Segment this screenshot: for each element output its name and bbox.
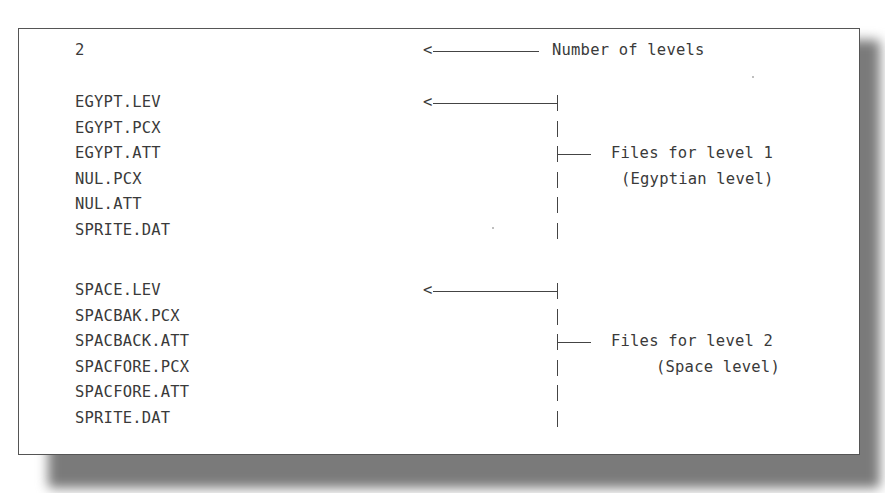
- speck: [492, 227, 494, 229]
- bracket-bar: [557, 172, 558, 188]
- bracket-bar: [557, 411, 558, 427]
- arrow-line: [433, 103, 557, 104]
- file-name: EGYPT.ATT: [75, 144, 161, 162]
- file-name: SPRITE.DAT: [75, 221, 170, 239]
- file-name: NUL.ATT: [75, 195, 142, 213]
- file-name: SPACE.LEV: [75, 281, 161, 299]
- arrow-left-icon: <: [423, 93, 432, 111]
- file-name: NUL.PCX: [75, 170, 142, 188]
- bracket-bar: [557, 121, 558, 137]
- level-count-label: Number of levels: [552, 41, 705, 59]
- file-name: SPACFORE.ATT: [75, 383, 189, 401]
- file-name: SPACBAK.PCX: [75, 307, 180, 325]
- label-connector: [558, 154, 591, 155]
- level-2-label: Files for level 2: [611, 332, 773, 350]
- bracket-bar: [557, 223, 558, 239]
- bracket-bar: [557, 360, 558, 376]
- file-name: SPACFORE.PCX: [75, 358, 189, 376]
- arrow-left-icon: <: [423, 281, 432, 299]
- speck: [752, 76, 754, 78]
- file-name: EGYPT.LEV: [75, 93, 161, 111]
- level-1-sublabel: (Egyptian level): [621, 170, 774, 188]
- arrow-line: [433, 51, 539, 52]
- file-name: EGYPT.PCX: [75, 119, 161, 137]
- bracket-bar: [557, 283, 558, 299]
- label-connector: [558, 342, 591, 343]
- level-1-label: Files for level 1: [611, 144, 773, 162]
- arrow-line: [433, 291, 557, 292]
- bracket-bar: [557, 197, 558, 213]
- level-count-value: 2: [75, 41, 85, 59]
- bracket-bar: [557, 309, 558, 325]
- file-listing-box: 2 < Number of levels EGYPT.LEV EGYPT.PCX…: [18, 28, 860, 455]
- arrow-left-icon: <: [423, 41, 432, 59]
- bracket-bar: [557, 385, 558, 401]
- file-name: SPACBACK.ATT: [75, 332, 189, 350]
- level-2-sublabel: (Space level): [656, 358, 780, 376]
- bracket-bar: [557, 95, 558, 111]
- file-name: SPRITE.DAT: [75, 409, 170, 427]
